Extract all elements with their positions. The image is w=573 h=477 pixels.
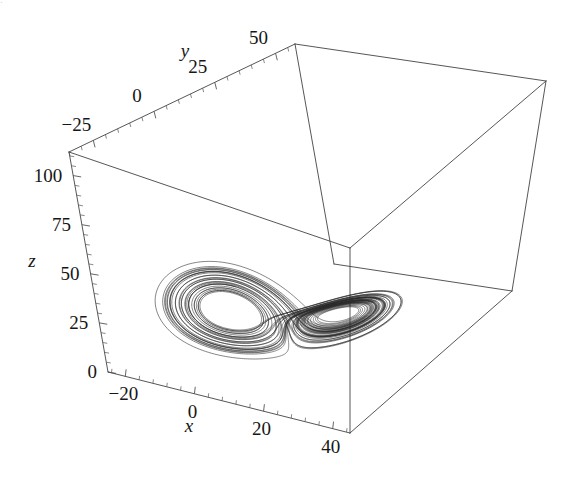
z-axis-minor-tick xyxy=(96,303,101,304)
z-axis-minor-tick xyxy=(103,343,108,344)
x-axis-major-tick-2 xyxy=(264,404,265,411)
x-axis-major-tick-1 xyxy=(194,387,195,394)
frame-edge-bottom-back-right xyxy=(334,264,512,291)
lorenz-attractor-plot: 0255075100−2002040−2502550zxy xyxy=(0,0,573,477)
z-axis-minor-tick xyxy=(98,313,103,314)
z-axis-minor-tick xyxy=(105,352,110,353)
x-tick-label-2: 20 xyxy=(252,418,271,439)
y-tick-label-1: 0 xyxy=(132,85,142,106)
y-axis-minor-tick xyxy=(130,123,131,127)
y-axis-major-tick-2 xyxy=(215,82,217,89)
y-axis-minor-tick xyxy=(263,59,264,63)
x-tick-label-0: −20 xyxy=(108,383,138,404)
z-axis-minor-tick xyxy=(87,254,92,255)
y-axis-minor-tick xyxy=(191,94,192,98)
z-axis-minor-tick xyxy=(84,235,89,236)
y-axis-major-tick-0 xyxy=(93,140,95,147)
y-axis-title: y xyxy=(179,40,190,61)
y-axis-minor-tick xyxy=(227,77,228,81)
lorenz-trajectory-path xyxy=(155,261,402,359)
z-axis-major-tick-3 xyxy=(82,225,90,226)
z-tick-label-0: 0 xyxy=(88,361,98,382)
y-axis-minor-tick xyxy=(239,71,240,75)
z-axis-minor-tick xyxy=(71,166,76,167)
z-axis-minor-tick xyxy=(94,293,99,294)
y-axis-minor-tick xyxy=(288,47,289,51)
frame-edge-bottom-front-left xyxy=(108,372,350,433)
y-axis-major-tick-3 xyxy=(276,53,278,60)
z-axis-major-tick-2 xyxy=(91,274,99,275)
y-axis-minor-tick xyxy=(166,106,167,110)
y-axis-minor-tick xyxy=(203,88,204,92)
y-axis-minor-tick xyxy=(81,146,82,150)
y-tick-label-2: 25 xyxy=(188,56,207,77)
frame-edge-vertical-right xyxy=(512,81,546,291)
frame-edge-top-front-left xyxy=(69,152,350,248)
axis-labels-group: 0255075100−2002040−2502550zxy xyxy=(27,27,340,456)
y-axis-minor-tick xyxy=(142,117,143,121)
z-tick-label-4: 100 xyxy=(34,165,63,186)
z-axis-minor-tick xyxy=(80,215,85,216)
z-axis-minor-tick xyxy=(85,244,90,245)
x-axis-major-tick-0 xyxy=(125,369,126,376)
figure-root: . 0255075100−2002040−2502550zxy xyxy=(0,0,573,477)
y-axis-minor-tick xyxy=(251,65,252,69)
z-axis-minor-tick xyxy=(106,362,111,363)
frame-edge-top-front-right xyxy=(350,81,546,248)
frame-edge-top-back-right xyxy=(295,44,546,81)
x-axis-title: x xyxy=(184,415,194,436)
z-tick-label-2: 50 xyxy=(61,263,80,284)
z-axis-major-tick-4 xyxy=(73,176,81,177)
y-axis-minor-tick xyxy=(105,135,106,139)
z-axis-minor-tick xyxy=(92,284,97,285)
z-axis-title: z xyxy=(27,250,36,271)
z-axis-minor-tick xyxy=(77,195,82,196)
y-axis-minor-tick xyxy=(178,100,179,104)
y-tick-label-3: 50 xyxy=(249,27,268,48)
z-axis-major-tick-1 xyxy=(99,323,107,324)
z-axis-minor-tick xyxy=(89,264,94,265)
x-axis-major-tick-3 xyxy=(333,422,334,429)
y-axis-minor-tick xyxy=(118,129,119,133)
y-axis-major-tick-1 xyxy=(154,111,156,118)
trajectory-curve xyxy=(155,261,402,359)
x-tick-label-3: 40 xyxy=(321,436,340,457)
y-tick-label-0: −25 xyxy=(61,114,91,135)
z-axis-minor-tick xyxy=(70,156,75,157)
z-tick-label-3: 75 xyxy=(52,214,71,235)
z-axis-minor-tick xyxy=(101,333,106,334)
z-axis-minor-tick xyxy=(75,185,80,186)
axis-ticks xyxy=(69,47,347,432)
z-tick-label-1: 25 xyxy=(69,312,88,333)
z-axis-minor-tick xyxy=(78,205,83,206)
